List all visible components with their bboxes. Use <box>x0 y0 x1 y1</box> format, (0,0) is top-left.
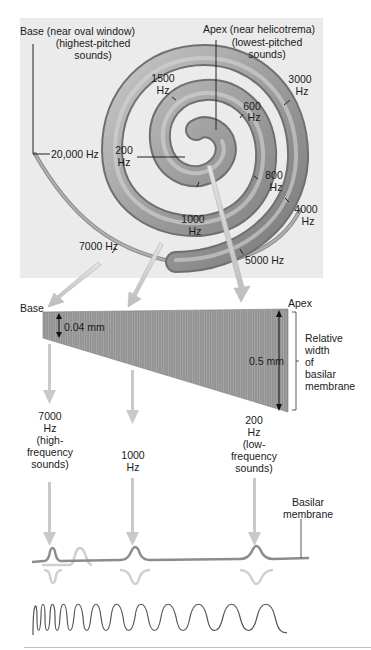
bottom-divider <box>24 647 371 648</box>
mapping-arrows <box>48 165 250 307</box>
pos-7000-desc-3: sounds) <box>22 458 78 470</box>
basilar-label-2: membrane <box>280 508 336 520</box>
freq-1500: 1500 <box>148 72 178 84</box>
freq-800-unit: Hz <box>264 181 288 193</box>
freq-20000: 20,000 Hz <box>51 148 99 160</box>
cochlea-apex-sub-1: (lowest-pitched <box>222 36 312 48</box>
membrane-base-width: 0.04 mm <box>64 321 105 333</box>
freq-5000: 5000 Hz <box>245 254 284 266</box>
membrane-base-label: Base <box>20 302 44 314</box>
pos-7000-freq: 7000 <box>22 410 78 422</box>
pos-200-desc-3: sounds) <box>226 462 282 474</box>
freq-1000: 1000 <box>178 213 208 225</box>
freq-7000: 7000 Hz <box>79 240 118 252</box>
pos-1000-freq: 1000 <box>108 449 158 461</box>
freq-600-unit: Hz <box>242 111 266 123</box>
freq-4000: 4000 <box>291 203 321 215</box>
freq-1500-unit: Hz <box>148 84 178 96</box>
cochlea-base-label: Base (near oval window) <box>20 25 135 37</box>
width-caption-1: Relative <box>305 332 343 344</box>
membrane-apex-label: Apex <box>288 297 312 309</box>
pos-200-unit: Hz <box>226 426 282 438</box>
displacement-line <box>32 519 309 584</box>
freq-1000-unit: Hz <box>180 225 210 237</box>
membrane-apex-width: 0.5 mm <box>249 355 284 367</box>
pos-200-freq: 200 <box>226 414 282 426</box>
diagram-artwork <box>0 0 371 650</box>
pos-200-desc-2: frequency <box>226 450 282 462</box>
frequency-waveform <box>33 604 287 635</box>
width-caption-2: width <box>305 344 330 356</box>
basilar-label-1: Basilar <box>280 496 336 508</box>
width-caption-4: basilar <box>305 368 336 380</box>
pos-7000-desc-1: (high- <box>22 434 78 446</box>
pos-1000-unit: Hz <box>108 461 158 473</box>
pos-200-desc-1: (low- <box>226 438 282 450</box>
cochlea-apex-sub-2: sounds) <box>222 48 312 60</box>
cochlea-apex-label: Apex (near helicotrema) <box>203 23 315 35</box>
freq-3000-unit: Hz <box>287 85 317 97</box>
freq-200-unit: Hz <box>112 156 136 168</box>
width-caption-3: of <box>305 356 314 368</box>
cochlea-base-sub-1: (highest-pitched <box>48 37 138 49</box>
pos-7000-desc-2: frequency <box>22 446 78 458</box>
freq-200: 200 <box>112 144 136 156</box>
freq-4000-unit: Hz <box>293 215 323 227</box>
freq-3000: 3000 <box>285 73 315 85</box>
cochlea-base-sub-2: sounds) <box>48 49 138 61</box>
freq-800: 800 <box>262 169 286 181</box>
width-caption-5: membrane <box>305 380 355 392</box>
pos-7000-unit: Hz <box>22 422 78 434</box>
